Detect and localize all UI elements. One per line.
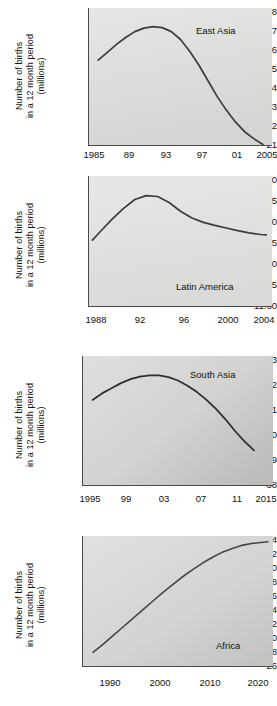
y-axis-title-line2: in a 12 month period <box>25 172 36 318</box>
x-axis-line <box>88 145 272 146</box>
x-tick-label: 97 <box>197 150 208 160</box>
y-axis-title-line2: in a 12 month period <box>25 6 36 146</box>
y-axis-title-line1: Number of births <box>14 532 25 678</box>
y-axis-title-line2: in a 12 month period <box>25 532 36 678</box>
x-axis-line <box>88 306 272 307</box>
y-axis-title-line3: (millions) <box>36 6 47 146</box>
x-tick-label: 92 <box>135 315 146 325</box>
plot-area-east-asia <box>89 8 272 145</box>
chart-panel-latin-america: Number of births in a 12 month period (m… <box>0 168 277 340</box>
x-tick-label: 1988 <box>85 315 106 325</box>
y-axis-title-africa: Number of births in a 12 month period (m… <box>14 532 47 678</box>
chart-panel-africa: Number of births in a 12 month period (m… <box>0 528 277 706</box>
series-label-south-asia: South Asia <box>190 370 235 380</box>
plot-area-africa <box>83 536 273 666</box>
x-tick-label: 01 <box>232 150 243 160</box>
x-tick-label: 2004 <box>253 315 274 325</box>
x-tick-label: 2000 <box>217 315 238 325</box>
plot-background <box>89 8 272 145</box>
births-charts-figure: Number of births in a 12 month period (m… <box>0 0 277 706</box>
y-axis-title-line3: (millions) <box>36 532 47 678</box>
y-axis-title-line1: Number of births <box>14 6 25 146</box>
series-label-east-asia: East Asia <box>196 26 236 36</box>
chart-panel-south-asia: Number of births in a 12 month period (m… <box>0 348 277 520</box>
x-tick-label: 96 <box>179 315 190 325</box>
y-axis-title-east-asia: Number of births in a 12 month period (m… <box>14 6 47 146</box>
x-tick-label: 1995 <box>79 494 100 504</box>
y-axis-title-line3: (millions) <box>36 352 47 498</box>
plot-svg-africa <box>83 536 273 666</box>
y-axis-title-line1: Number of births <box>14 352 25 498</box>
plot-background <box>83 356 273 485</box>
x-tick-label: 89 <box>124 150 135 160</box>
x-tick-label: 03 <box>159 494 170 504</box>
x-tick-label: 11 <box>232 494 242 504</box>
x-axis-line <box>82 485 273 486</box>
plot-area-south-asia <box>83 356 273 485</box>
x-tick-label: 07 <box>196 494 207 504</box>
x-tick-label: 93 <box>161 150 172 160</box>
x-tick-label: 2005 <box>256 150 277 160</box>
y-axis-title-south-asia: Number of births in a 12 month period (m… <box>14 352 47 498</box>
plot-svg-east-asia <box>89 8 272 145</box>
x-axis-line <box>82 666 273 667</box>
series-label-latin-america: Latin America <box>176 282 234 292</box>
x-tick-label: 2015 <box>255 494 276 504</box>
x-tick-label: 2010 <box>199 678 220 688</box>
x-tick-label: 2020 <box>247 678 268 688</box>
plot-background <box>83 536 273 666</box>
x-tick-label: 1990 <box>99 678 120 688</box>
x-tick-label: 1985 <box>83 150 104 160</box>
series-label-africa: Africa <box>216 641 240 651</box>
y-axis-title-latin-america: Number of births in a 12 month period (m… <box>14 172 47 318</box>
x-tick-label: 99 <box>121 494 132 504</box>
y-axis-title-line3: (millions) <box>36 172 47 318</box>
y-axis-title-line2: in a 12 month period <box>25 352 36 498</box>
plot-svg-south-asia <box>83 356 273 485</box>
x-tick-label: 2000 <box>149 678 170 688</box>
chart-panel-east-asia: Number of births in a 12 month period (m… <box>0 0 277 164</box>
y-axis-title-line1: Number of births <box>14 172 25 318</box>
